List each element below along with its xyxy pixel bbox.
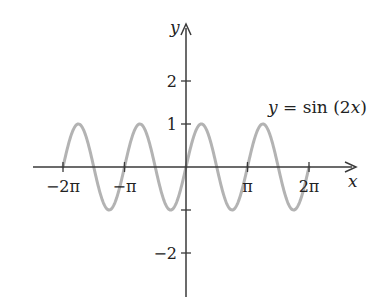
x-tick-label: −π xyxy=(113,177,137,196)
axes xyxy=(33,24,356,297)
y-tick-label: 1 xyxy=(167,115,177,134)
y-tick-label: −2 xyxy=(153,244,177,263)
x-tick-label: −2π xyxy=(46,177,80,196)
x-tick-label: π xyxy=(242,177,253,196)
sine-plot: −2π−ππ2π 21−2 x y y = sin (2x) xyxy=(0,0,383,297)
x-tick-label: 2π xyxy=(299,177,320,196)
function-label: y = sin (2x) xyxy=(267,97,367,117)
y-axis-label: y xyxy=(169,17,180,37)
y-tick-label: 2 xyxy=(167,72,177,91)
x-axis-label: x xyxy=(348,171,358,191)
